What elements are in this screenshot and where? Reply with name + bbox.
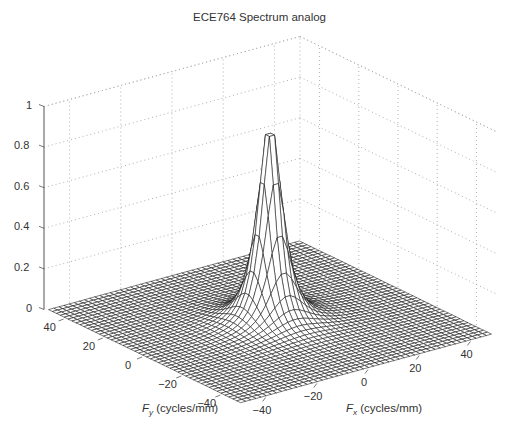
y-tick-mark (215, 395, 220, 397)
z-tick-mark (39, 308, 44, 310)
z-tick-mark (39, 186, 44, 188)
surface-plot-area (0, 0, 519, 442)
y-axis-symbol: F (142, 402, 149, 414)
z-tick-label: 0.2 (14, 261, 29, 273)
chart-title: ECE764 Spectrum analog (0, 11, 519, 23)
y-tick-label: 40 (44, 321, 56, 333)
y-tick-label: −20 (158, 378, 177, 390)
z-tick-label: 0.8 (14, 139, 29, 151)
y-tick-label: 0 (125, 359, 131, 371)
x-tick-mark (263, 398, 266, 402)
x-axis-units: (cycles/mm) (357, 402, 422, 414)
y-axis-label: Fy (cycles/mm) (142, 402, 218, 417)
z-tick-mark (39, 145, 44, 147)
y-tick-mark (137, 357, 142, 359)
z-tick-mark (39, 105, 44, 107)
y-tick-mark (59, 319, 64, 321)
x-axis-symbol: F (346, 402, 353, 414)
x-tick-mark (467, 342, 470, 346)
x-tick-label: 20 (409, 362, 421, 374)
z-tick-label: 1 (26, 99, 32, 111)
y-tick-mark (176, 376, 181, 378)
x-tick-label: 40 (460, 348, 472, 360)
surface-mesh (49, 133, 492, 403)
z-tick-mark (39, 226, 44, 228)
grid-line (300, 158, 496, 253)
x-axis-label: Fx (cycles/mm) (346, 402, 422, 417)
grid-line (300, 77, 496, 172)
y-tick-label: 20 (83, 340, 95, 352)
z-tick-mark (39, 267, 44, 269)
z-tick-label: 0.6 (14, 180, 29, 192)
x-tick-mark (314, 384, 317, 388)
z-tick-label: 0.4 (14, 220, 29, 232)
x-tick-mark (365, 370, 368, 374)
surface-plot-figure: ECE764 Spectrum analog 00.20.40.60.81−40… (0, 0, 519, 442)
x-tick-mark (416, 356, 419, 360)
z-tick-label: 0 (26, 302, 32, 314)
x-tick-label: −20 (304, 390, 323, 402)
y-tick-mark (98, 338, 103, 340)
x-tick-label: 0 (361, 376, 367, 388)
grid-line (44, 77, 300, 147)
y-axis-units: (cycles/mm) (153, 402, 218, 414)
x-tick-label: −40 (253, 404, 272, 416)
